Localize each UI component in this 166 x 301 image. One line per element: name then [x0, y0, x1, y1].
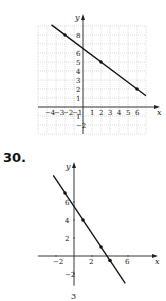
- graph-2: xy−226−2246: [38, 162, 160, 286]
- x-axis-label: x: [155, 257, 160, 266]
- graph-1: xy−4−3−2−1123456−211234568: [38, 13, 162, 134]
- y-tick-label: −2: [76, 122, 86, 130]
- x-tick-label: 2: [89, 258, 93, 266]
- data-point: [108, 259, 112, 263]
- y-tick-label: 5: [76, 59, 80, 67]
- y-axis-label: y: [74, 13, 80, 22]
- y-tick-label: −2: [65, 271, 75, 279]
- y-tick-label: 4: [65, 217, 70, 225]
- y-tick-label: 1: [76, 95, 80, 103]
- data-point: [99, 245, 103, 249]
- data-point: [63, 33, 67, 37]
- y-axis-arrow-icon: [72, 162, 76, 168]
- y-axis-arrow-icon: [81, 14, 85, 20]
- x-tick-label: 4: [117, 109, 122, 117]
- y-tick-label: 3: [76, 77, 80, 85]
- y-tick-label: 2: [76, 86, 80, 94]
- y-tick-label: 6: [76, 50, 81, 58]
- y-tick-label: 4: [76, 68, 81, 76]
- data-point: [99, 60, 103, 64]
- y-axis-label: y: [65, 162, 71, 171]
- x-tick-label: 2: [99, 109, 103, 117]
- x-tick-label: 1: [90, 109, 94, 117]
- data-point: [135, 87, 139, 91]
- x-tick-label: 3: [108, 109, 112, 117]
- y-tick-label: 1: [76, 113, 80, 121]
- problem-number: 30.: [3, 150, 26, 165]
- y-tick-label: 8: [76, 32, 80, 40]
- data-point: [63, 191, 67, 195]
- x-tick-label: 5: [126, 109, 130, 117]
- x-tick-label: −2: [53, 258, 63, 266]
- data-point: [81, 218, 85, 222]
- cut-off-text-fragment: 3: [71, 292, 76, 301]
- x-axis-label: x: [157, 108, 162, 117]
- x-tick-label: 6: [125, 258, 130, 266]
- y-tick-label: 2: [65, 235, 69, 243]
- x-tick-label: 6: [135, 109, 140, 117]
